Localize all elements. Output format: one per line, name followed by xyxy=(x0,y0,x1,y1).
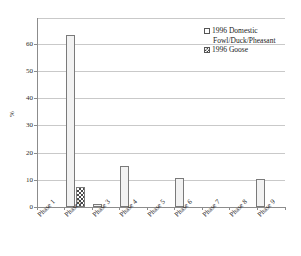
y-tick-label-40: 40 xyxy=(0,95,33,102)
legend-swatch-goose-icon xyxy=(204,47,210,53)
bar-domestic-phase-9 xyxy=(256,179,265,207)
y-tick-label-10: 10 xyxy=(0,177,33,184)
bar-domestic-phase-4 xyxy=(120,166,129,207)
legend-item-goose: 1996 Goose xyxy=(204,45,298,55)
legend-swatch-domestic-icon xyxy=(204,28,210,34)
bar-domestic-phase-2 xyxy=(66,35,75,207)
bar-chart: 60 50 40 30 20 10 0 % Phase 1 Phase 2 Ph… xyxy=(0,0,301,256)
legend-item-domestic: 1996 Domestic xyxy=(204,26,298,36)
legend-label-domestic-line1: 1996 Domestic xyxy=(212,26,258,35)
legend-label-goose: 1996 Goose xyxy=(212,45,248,54)
y-tick-label-0: 0 xyxy=(0,204,33,211)
y-tick-label-60: 60 xyxy=(0,41,33,48)
legend: 1996 Domestic Fowl/Duck/Pheasant 1996 Go… xyxy=(204,26,298,55)
y-tick-label-20: 20 xyxy=(0,150,33,157)
y-tick-label-50: 50 xyxy=(0,68,33,75)
legend-label-domestic-line2-wrap: Fowl/Duck/Pheasant xyxy=(204,36,298,46)
y-axis-title: % xyxy=(8,111,16,117)
y-tick-label-30: 30 xyxy=(0,122,33,129)
x-tick-mark-9 xyxy=(285,207,286,210)
legend-label-domestic-line2: Fowl/Duck/Pheasant xyxy=(213,36,276,45)
